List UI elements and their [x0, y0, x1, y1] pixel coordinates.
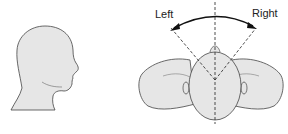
arrow-right-icon: [247, 22, 257, 29]
side-profile-head: [11, 26, 78, 110]
rotation-arc: [174, 16, 253, 28]
diagram-canvas: [0, 0, 288, 134]
top-view-head: [139, 2, 283, 124]
label-left: Left: [155, 8, 173, 20]
label-right: Right: [252, 7, 278, 19]
arrow-left-icon: [170, 23, 180, 31]
